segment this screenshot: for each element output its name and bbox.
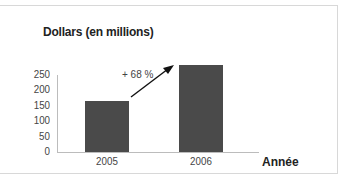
growth-arrow-icon xyxy=(0,0,344,179)
